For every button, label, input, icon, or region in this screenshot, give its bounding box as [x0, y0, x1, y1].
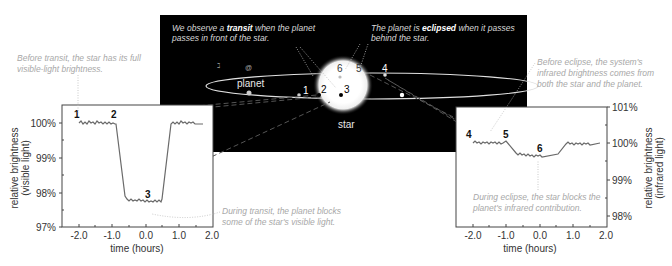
eclipse-marker-5: 5: [503, 129, 509, 140]
position-dot-6: [338, 75, 341, 78]
eclipse-ytick: 100%: [612, 138, 638, 149]
transit-ytick: 98%: [36, 188, 56, 199]
transit-xtick: 2.0: [205, 230, 219, 241]
planet-position-right: [400, 93, 404, 97]
during-transit-note: During transit, the planet blocks: [222, 206, 342, 216]
position-dot-3: [339, 93, 343, 97]
svg-text:(visible light): (visible light): [20, 140, 31, 196]
planet-label: planet: [237, 78, 264, 89]
eclipse-xlabel: time (hours): [503, 243, 556, 254]
transit-xtick: 0.0: [139, 230, 153, 241]
transit-xtick: 1.0: [172, 230, 186, 241]
svg-text:relative brightness: relative brightness: [9, 127, 20, 208]
transit-xtick: -2.0: [70, 230, 88, 241]
position-label-5: 5: [356, 63, 362, 74]
eclipse-xtick: -1.0: [497, 230, 515, 241]
planet-icon: @: [245, 64, 252, 71]
eclipse-marker-6: 6: [537, 143, 543, 154]
transit-ytick: 100%: [30, 118, 56, 129]
eclipse-caption-line2: behind the star.: [371, 33, 429, 43]
eclipse-xtick: 0.0: [533, 230, 547, 241]
transit-chart: 100% 99% 98% 97% -2.0 -1.0 0.0 1.0 2.0 t…: [9, 105, 219, 254]
position-label-3: 3: [344, 84, 350, 95]
during-transit-note-2: some of the star's visible light.: [222, 217, 335, 227]
eclipse-ytick: 98%: [612, 211, 632, 222]
eclipse-ytick: 99%: [612, 175, 632, 186]
svg-text:(infrared light): (infrared light): [654, 137, 665, 199]
eclipse-caption: The planet is eclipsed when it passes: [371, 23, 515, 33]
before-transit-note-2: visible-light brightness.: [17, 64, 103, 74]
planet-icon: [247, 91, 252, 96]
position-label-1: 1: [303, 85, 309, 96]
eclipse-marker-4: 4: [466, 129, 472, 140]
transit-caption: We observe a transit when the planet: [172, 23, 316, 33]
star-label: star: [338, 119, 355, 130]
transit-ylabel: relative brightness (visible light): [9, 127, 31, 208]
svg-text:relative brightness: relative brightness: [643, 127, 654, 208]
transit-ytick: 97%: [36, 222, 56, 233]
eclipse-xtick: 1.0: [566, 230, 580, 241]
transit-caption-line2: passes in front of the star.: [171, 33, 269, 43]
before-eclipse-note-2: infrared brightness comes from: [537, 68, 654, 78]
transit-marker-2: 2: [111, 109, 117, 120]
transit-xlabel: time (hours): [110, 243, 163, 254]
eclipse-ylabel: relative brightness (infrared light): [643, 127, 665, 208]
eclipse-xtick: -2.0: [464, 230, 482, 241]
position-label-6: 6: [337, 63, 343, 74]
eclipse-xtick: 2.0: [599, 230, 613, 241]
transit-marker-3: 3: [145, 189, 151, 200]
planet-icon: ℷ: [217, 62, 220, 69]
transit-eclipse-diagram: We observe a transit when the planet pas…: [0, 0, 672, 266]
before-eclipse-note: Before eclipse, the system's: [537, 57, 643, 67]
transit-ytick: 99%: [36, 153, 56, 164]
transit-xtick: -1.0: [103, 230, 121, 241]
eclipse-chart: 101% 100% 99% 98% -2.0 -1.0 0.0 1.0 2.0 …: [456, 102, 665, 254]
transit-marker-1: 1: [74, 109, 80, 120]
before-transit-note: Before transit, the star has its full: [17, 53, 142, 63]
position-label-4: 4: [382, 63, 388, 74]
during-eclipse-note-2: planet's infrared contribution.: [472, 203, 582, 213]
before-eclipse-note-3: both the star and the planet.: [537, 79, 643, 89]
position-label-2: 2: [321, 84, 327, 95]
eclipse-ytick: 101%: [612, 102, 638, 113]
during-eclipse-note: During eclipse, the star blocks the: [473, 192, 601, 202]
